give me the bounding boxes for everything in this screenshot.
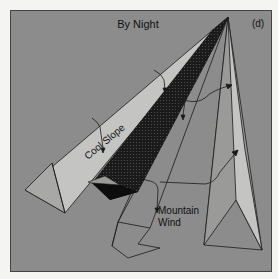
valley-floor: [88, 17, 228, 200]
diagram-title: By Night: [117, 18, 159, 30]
wind-label: Wind: [158, 217, 181, 228]
right-ridge: [204, 17, 262, 250]
panel-label: (d): [252, 18, 264, 29]
mountain-label: Mountain: [158, 205, 199, 216]
mountain-wind-diagram: By Night (d) Cool Slope Mountain Wind: [0, 0, 278, 279]
